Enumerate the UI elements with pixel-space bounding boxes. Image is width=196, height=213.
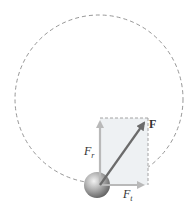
force-label: F bbox=[149, 117, 156, 131]
tangential-force-label: Ft bbox=[122, 187, 133, 203]
radial-force-label-subscript: r bbox=[91, 151, 95, 160]
circular-motion-force-diagram: F Fr Ft bbox=[0, 0, 196, 213]
tangential-force-label-subscript: t bbox=[130, 194, 133, 203]
radial-force-label: Fr bbox=[83, 144, 95, 160]
